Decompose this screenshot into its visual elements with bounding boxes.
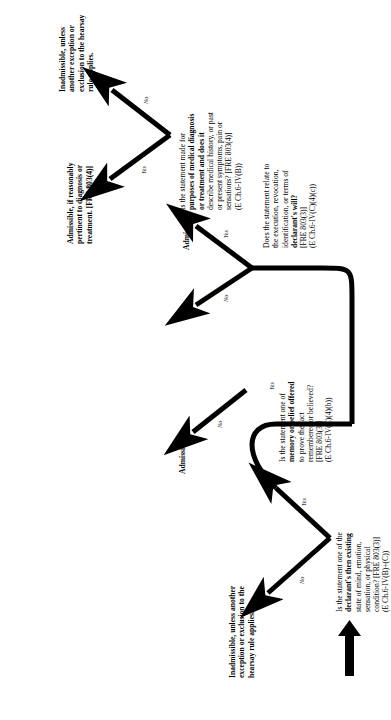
edge-label-no-1: No: [298, 577, 305, 584]
node-q-memory-belief: Is the statement one of memory or belief…: [278, 330, 334, 462]
node-line: the execution, revocation,: [271, 102, 280, 248]
node-line: to prove the fact: [297, 330, 306, 462]
node-line: [FRE 803(3)]: [299, 102, 308, 248]
node-line: Inadmissible, unless: [58, 0, 67, 92]
node-line: (E Ch.6-IV(C)(4)(b)): [324, 330, 333, 462]
node-line: pertinent to diagnosis or: [75, 104, 84, 244]
edge-label-yes-2: Yes: [268, 382, 275, 390]
node-line: another exception or: [67, 0, 76, 92]
node-line: rule applies.: [86, 0, 95, 92]
node-line: remembered or believed?: [306, 330, 315, 462]
edge-yes-1: [276, 488, 330, 538]
node-line: Admissible.: [178, 384, 187, 474]
node-line: state of mind, emotion,: [354, 486, 363, 612]
node-t-admissible-mid: Admissible.: [178, 384, 187, 474]
edge-label-no-2: No: [216, 421, 223, 428]
node-line: declarant's then existing: [344, 486, 353, 612]
node-line: describe medical history, or past: [206, 50, 215, 210]
node-line: Admissible.: [182, 160, 191, 250]
node-line: (E Ch.6-IV(B)+(C)): [381, 486, 390, 612]
edge-label-yes-3: Yes: [222, 230, 229, 238]
node-line: Does the statement relate to: [262, 102, 271, 248]
node-line: exception or exclusion to the: [237, 528, 246, 678]
node-line: exclusion to the hearsay: [77, 0, 86, 92]
node-line: identification, or terms of: [281, 102, 290, 248]
node-line: or present symptoms, pain or: [215, 50, 224, 210]
node-t-admissible-medical: Admissible, if reasonably pertinent to d…: [66, 104, 94, 244]
start-arrow-icon: [338, 620, 361, 676]
edge-label-no-3: No: [222, 295, 229, 302]
node-line: condition? [FRE 803(3)]: [372, 486, 381, 612]
node-line: Admissible, if reasonably: [66, 104, 75, 244]
edge-label-no-4: No: [142, 97, 149, 104]
edge-label-yes-4: Yes: [140, 166, 147, 174]
node-line: (E Ch.6-IV(B)): [234, 50, 243, 210]
node-line: hearsay rule applies.: [247, 528, 256, 678]
node-t-inadmissible-right: Inadmissible, unless another exception o…: [58, 0, 95, 92]
node-line: treatment. [FRE 803(4)]: [85, 104, 94, 244]
node-line: Inadmissible, unless another: [228, 528, 237, 678]
edge-no-1: [268, 538, 330, 593]
node-line: (E Ch.6-IV(C)(4)(c)): [308, 102, 317, 248]
node-line: Is the statement one of the: [335, 486, 344, 612]
node-line: declarant's will?: [290, 102, 299, 248]
edge-no-4: [112, 90, 170, 135]
node-t-inadmissible-left: Inadmissible, unless another exception o…: [228, 528, 256, 678]
node-q-will: Does the statement relate to the executi…: [262, 102, 318, 248]
node-q-state-of-mind: Is the statement one of the declarant's …: [335, 486, 391, 612]
node-line: sensation, or physical: [363, 486, 372, 612]
node-t-admissible-will: Admissible.: [182, 160, 191, 250]
node-line: Is the statement one of: [278, 330, 287, 462]
node-line: memory or belief offered: [287, 330, 296, 462]
edge-label-yes-1: Yes: [300, 498, 307, 506]
node-line: or treatment and does it: [197, 50, 206, 210]
node-line: [FRE 803(3)]: [315, 330, 324, 462]
node-line: sensations? [FRE 803(4)]: [224, 50, 233, 210]
